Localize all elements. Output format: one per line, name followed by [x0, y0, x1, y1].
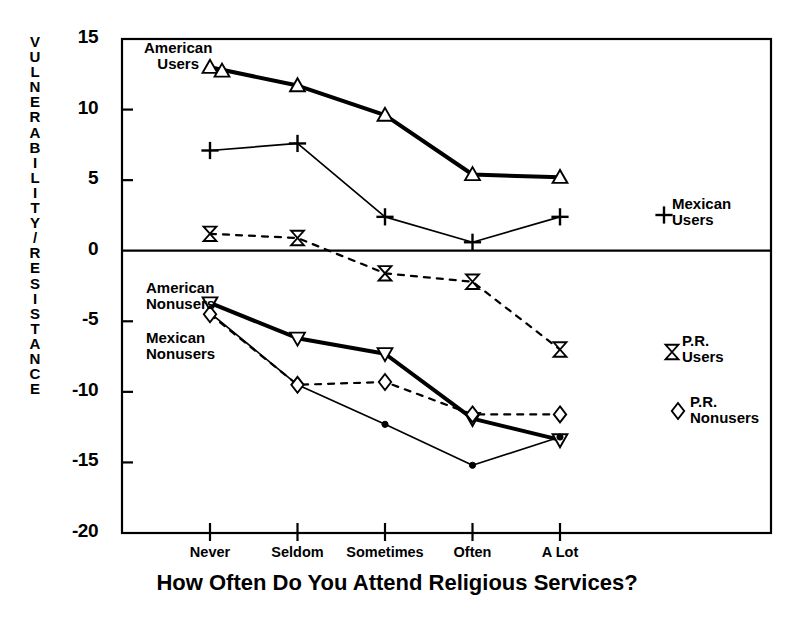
series-label-mexican-nonusers: Mexican Nonusers [146, 330, 215, 362]
series-label-pr-nonusers: P.R. Nonusers [690, 394, 759, 426]
series-layer [201, 60, 568, 469]
series-label-american-users: American Users [144, 40, 212, 72]
plot-frame [122, 39, 771, 533]
chart-plot-area [0, 0, 794, 619]
series-label-american-nonusers: American Nonusers [146, 280, 215, 312]
series-label-mexican-users: Mexican Users [672, 196, 731, 228]
chart-figure: V U L N E R A B I L I T Y / R E S I S T … [0, 0, 794, 619]
annotation-leaders [215, 64, 685, 419]
series-label-pr-users: P.R. Users [682, 333, 724, 365]
